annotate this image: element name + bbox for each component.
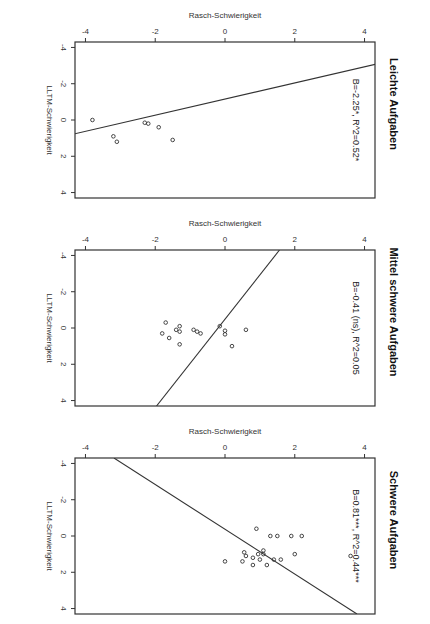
data-point <box>255 527 259 531</box>
data-point <box>262 549 266 553</box>
y-tick-label: -4 <box>82 235 90 244</box>
y-axis-label: Rasch-Schwierigkeit <box>189 219 262 228</box>
x-tick-label: 4 <box>59 190 68 195</box>
data-point <box>276 534 280 538</box>
data-point <box>251 563 255 567</box>
data-point <box>269 534 273 538</box>
x-axis-label: LLTM-Schwierigkeit <box>45 501 54 571</box>
data-point <box>199 332 203 336</box>
data-point <box>223 329 227 333</box>
data-point <box>174 328 178 332</box>
plot-frame <box>75 42 375 198</box>
x-tick-label: 4 <box>59 398 68 403</box>
data-point <box>244 328 248 332</box>
regression-annotation: B=-0.41 (ns), R^2=0.05 <box>351 281 361 374</box>
data-point <box>223 560 227 564</box>
regression-annotation: B=0.81***, R^2=0.44*** <box>351 489 361 583</box>
data-point <box>289 534 293 538</box>
x-tick-label: -4 <box>59 460 68 468</box>
x-tick-label: -2 <box>59 496 68 504</box>
data-point <box>300 534 304 538</box>
y-tick-label: -2 <box>152 443 160 452</box>
regression-annotation: B=-2.25*, R^2=0.52* <box>351 79 361 162</box>
data-point <box>157 125 161 129</box>
data-point <box>171 138 175 142</box>
data-point <box>178 343 182 347</box>
y-tick-label: 2 <box>293 235 298 244</box>
x-tick-label: 0 <box>59 326 68 331</box>
x-axis-label: LLTM-Schwierigkeit <box>45 85 54 155</box>
x-tick-label: -2 <box>59 80 68 88</box>
y-axis-label: Rasch-Schwierigkeit <box>189 11 262 20</box>
data-point <box>146 122 150 126</box>
y-tick-label: 4 <box>362 27 367 36</box>
x-tick-label: 2 <box>59 570 68 575</box>
data-point <box>241 560 245 564</box>
x-tick-label: 2 <box>59 362 68 367</box>
scatter-plot-leichte: -4-2024-4-2024LLTM-SchwierigkeitRasch-Sc… <box>30 0 430 208</box>
data-point <box>164 321 168 325</box>
data-point <box>223 333 227 337</box>
scatter-plot-schwere: -4-2024-4-2024LLTM-SchwierigkeitRasch-Sc… <box>30 416 430 624</box>
data-point <box>279 558 283 562</box>
panel-mittel-schwere-aufgaben: Mittel schwere Aufgaben -4-2024-4-2024LL… <box>0 208 430 416</box>
data-point <box>265 563 269 567</box>
data-point <box>178 324 182 328</box>
data-point <box>143 121 147 125</box>
data-point <box>256 552 260 556</box>
y-tick-label: 4 <box>362 443 367 452</box>
y-tick-label: -4 <box>82 443 90 452</box>
x-tick-label: -2 <box>59 288 68 296</box>
x-tick-label: -4 <box>59 44 68 52</box>
panel-schwere-aufgaben: Schwere Aufgaben -4-2024-4-2024LLTM-Schw… <box>0 416 430 624</box>
plot-frame <box>75 250 375 406</box>
y-tick-label: -2 <box>152 235 160 244</box>
data-point <box>230 344 234 348</box>
x-tick-label: -4 <box>59 252 68 260</box>
y-tick-label: 0 <box>223 235 228 244</box>
y-tick-label: 4 <box>362 235 367 244</box>
data-point <box>293 552 297 556</box>
rotated-page: Leichte Aufgaben -4-2024-4-2024LLTM-Schw… <box>0 0 430 624</box>
data-point <box>112 135 116 139</box>
data-point <box>178 330 182 334</box>
data-point <box>251 556 255 560</box>
y-tick-label: 0 <box>223 443 228 452</box>
data-point <box>167 336 171 340</box>
y-tick-label: 2 <box>293 27 298 36</box>
regression-line <box>114 458 357 614</box>
data-point <box>244 554 248 558</box>
data-point <box>115 140 119 144</box>
x-tick-label: 4 <box>59 606 68 611</box>
y-axis-label: Rasch-Schwierigkeit <box>189 427 262 436</box>
y-tick-label: 0 <box>223 27 228 36</box>
panel-leichte-aufgaben: Leichte Aufgaben -4-2024-4-2024LLTM-Schw… <box>0 0 430 208</box>
y-tick-label: -4 <box>82 27 90 36</box>
plot-frame <box>75 458 375 614</box>
x-axis-label: LLTM-Schwierigkeit <box>45 293 54 363</box>
y-tick-label: -2 <box>152 27 160 36</box>
data-point <box>160 332 164 336</box>
x-tick-label: 0 <box>59 118 68 123</box>
data-point <box>195 330 199 334</box>
x-tick-label: 0 <box>59 534 68 539</box>
scatter-plot-mittel: -4-2024-4-2024LLTM-SchwierigkeitRasch-Sc… <box>30 208 430 416</box>
data-point <box>91 118 95 122</box>
data-point <box>192 328 196 332</box>
y-tick-label: 2 <box>293 443 298 452</box>
data-point <box>258 558 262 562</box>
x-tick-label: 2 <box>59 154 68 159</box>
data-point <box>242 551 246 555</box>
